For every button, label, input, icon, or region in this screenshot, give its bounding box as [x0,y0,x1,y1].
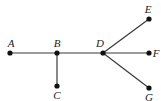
node-label-b: B [54,37,61,49]
edges [10,19,149,88]
node-f [146,50,151,55]
edge-d-g [103,53,149,88]
node-labels: ABCDEFG [7,3,160,101]
node-label-d: D [95,37,104,49]
edge-d-e [103,19,149,53]
tree-diagram: ABCDEFG [0,0,161,101]
node-b [54,50,59,55]
node-label-c: C [53,89,61,101]
node-label-e: E [144,3,152,15]
node-e [146,16,151,21]
node-label-g: G [145,91,153,101]
node-g [146,85,151,90]
node-d [100,50,105,55]
node-c [54,83,59,88]
node-label-f: F [152,47,160,59]
node-label-a: A [7,37,15,49]
node-a [7,50,12,55]
